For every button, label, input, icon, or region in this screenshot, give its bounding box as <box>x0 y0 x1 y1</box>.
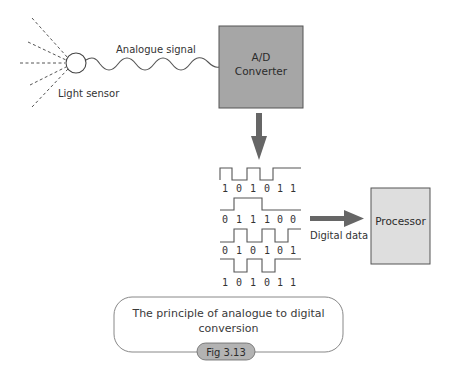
svg-text:0: 0 <box>264 183 270 194</box>
adc-diagram: Light sensor Analogue signal A/D Convert… <box>0 0 451 370</box>
caption-line1: The principle of analogue to digital <box>131 307 324 320</box>
analogue-signal-wave <box>86 58 219 70</box>
svg-text:0: 0 <box>236 277 242 288</box>
figure-caption: The principle of analogue to digital con… <box>114 297 343 360</box>
svg-text:0: 0 <box>277 245 283 256</box>
svg-text:0: 0 <box>236 183 242 194</box>
svg-text:1: 1 <box>290 277 296 288</box>
svg-text:1: 1 <box>264 245 270 256</box>
converter-label-line2: Converter <box>235 65 288 77</box>
svg-text:1: 1 <box>264 214 270 225</box>
bit-stream-2: 0 1 1 1 0 0 <box>220 198 301 225</box>
svg-text:0: 0 <box>290 214 296 225</box>
svg-text:1: 1 <box>277 183 283 194</box>
ad-converter-box: A/D Converter <box>219 26 303 108</box>
figure-label: Fig 3.13 <box>206 347 246 358</box>
svg-text:1: 1 <box>290 245 296 256</box>
light-sensor-icon <box>66 53 86 73</box>
bit-stream-1: 1 0 1 0 1 1 <box>220 168 301 194</box>
light-sensor-label: Light sensor <box>58 88 120 99</box>
svg-text:1: 1 <box>277 277 283 288</box>
svg-text:1: 1 <box>290 183 296 194</box>
svg-text:1: 1 <box>250 277 256 288</box>
processor-box: Processor <box>371 188 430 264</box>
svg-text:1: 1 <box>236 214 242 225</box>
caption-line2: conversion <box>198 322 258 335</box>
bit-stream-3: 0 1 0 1 0 1 <box>220 229 301 256</box>
svg-text:1: 1 <box>250 183 256 194</box>
svg-text:0: 0 <box>277 214 283 225</box>
svg-text:0: 0 <box>264 277 270 288</box>
svg-text:1: 1 <box>222 277 228 288</box>
analogue-signal-label: Analogue signal <box>116 44 196 55</box>
digital-data-label: Digital data <box>310 230 368 241</box>
converter-label-line1: A/D <box>252 51 271 63</box>
svg-text:0: 0 <box>250 245 256 256</box>
svg-text:1: 1 <box>250 214 256 225</box>
processor-label: Processor <box>375 215 426 227</box>
svg-text:1: 1 <box>222 183 228 194</box>
right-arrow-icon <box>310 210 364 227</box>
svg-text:0: 0 <box>222 214 228 225</box>
bit-stream-4: 1 0 1 0 1 1 <box>220 259 301 288</box>
down-arrow-icon <box>251 113 267 160</box>
svg-text:0: 0 <box>222 245 228 256</box>
svg-text:1: 1 <box>236 245 242 256</box>
